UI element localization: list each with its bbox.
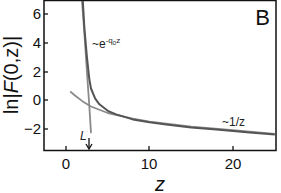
x-tick-10: 10	[141, 155, 158, 172]
x-tick-20: 20	[225, 155, 242, 172]
y-tick-6: 6	[33, 5, 41, 22]
annotation-L: L	[80, 129, 87, 143]
y-axis-label: ln|F(0,z)|	[0, 36, 22, 114]
annotation-inverse-z: ~1/z	[222, 115, 245, 129]
y-tick-2: 2	[33, 63, 41, 80]
x-tick-0: 0	[62, 155, 70, 172]
y-tick-4: 4	[33, 34, 41, 51]
y-tick-minus2: −2	[24, 120, 41, 137]
panel-label: B	[255, 5, 270, 30]
y-tick-0: 0	[33, 91, 41, 108]
chart: 0 10 20 6 4 2 0 −2 z ln|F(0,z)| B ~e-q0z…	[0, 0, 281, 193]
x-axis-label: z	[154, 173, 165, 193]
